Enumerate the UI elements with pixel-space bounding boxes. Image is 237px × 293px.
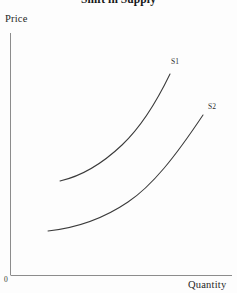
supply-curve-s1 <box>60 74 170 181</box>
curve-label-s2: S2 <box>208 102 216 111</box>
supply-curve-s2 <box>48 115 203 231</box>
plot-area <box>0 0 237 293</box>
curve-label-s1: S1 <box>171 57 179 66</box>
supply-shift-chart: Shift in Supply Price Quantity 0 S1 S2 <box>0 0 237 293</box>
